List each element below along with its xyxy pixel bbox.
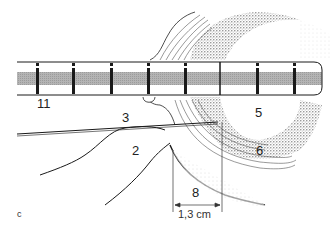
medical-diagram: 11 3 2 5 6 8 1,3 cm c xyxy=(0,0,335,235)
tube-knob xyxy=(143,97,155,102)
label-wall: 6 xyxy=(256,144,263,157)
tissue-2-contour-upper xyxy=(40,127,165,175)
label-lumen: 5 xyxy=(255,106,262,119)
label-probe: 3 xyxy=(122,111,129,124)
label-distance: 8 xyxy=(192,186,199,199)
tube xyxy=(17,62,322,95)
diagram-drawing xyxy=(0,0,335,235)
label-tissue-left: 2 xyxy=(132,144,139,157)
measurement-label: 1,3 cm xyxy=(178,209,211,220)
tissue-wall-upper xyxy=(190,12,330,60)
panel-letter: c xyxy=(17,210,22,219)
probe-needle xyxy=(17,122,218,136)
label-tube: 11 xyxy=(37,97,51,110)
